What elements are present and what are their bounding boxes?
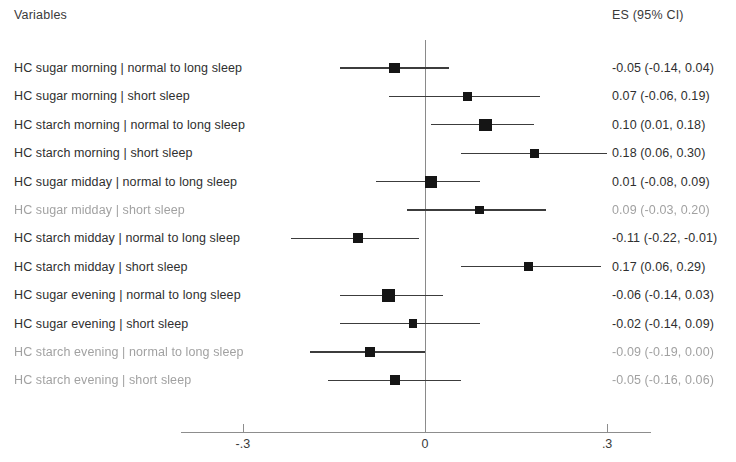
axis-tick-label: .3 [602, 437, 612, 451]
row-effect-size-value: 0.10 (0.01, 0.18) [612, 111, 705, 139]
table-row: HC sugar midday | short sleep0.09 (-0.03… [0, 196, 736, 224]
table-row: HC sugar morning | normal to long sleep-… [0, 54, 736, 82]
row-variable-label: HC sugar midday | short sleep [14, 196, 185, 224]
row-effect-size-value: -0.09 (-0.19, 0.00) [612, 338, 714, 366]
row-variable-label: HC starch morning | normal to long sleep [14, 111, 245, 139]
table-row: HC sugar evening | short sleep-0.02 (-0.… [0, 310, 736, 338]
row-effect-size-value: 0.18 (0.06, 0.30) [612, 139, 705, 167]
row-variable-label: HC starch midday | short sleep [14, 253, 188, 281]
table-row: HC sugar evening | normal to long sleep-… [0, 281, 736, 309]
row-variable-label: HC starch morning | short sleep [14, 139, 193, 167]
row-variable-label: HC starch evening | normal to long sleep [14, 338, 244, 366]
row-variable-label: HC starch evening | short sleep [14, 366, 191, 394]
forest-plot-figure: Variables ES (95% CI) HC sugar morning |… [0, 0, 736, 462]
row-effect-size-value: -0.05 (-0.14, 0.04) [612, 54, 714, 82]
row-variable-label: HC sugar morning | normal to long sleep [14, 54, 242, 82]
row-effect-size-value: 0.07 (-0.06, 0.19) [612, 82, 710, 110]
column-header-effect-size: ES (95% CI) [612, 8, 684, 22]
row-effect-size-value: -0.11 (-0.22, -0.01) [612, 224, 717, 252]
axis-tick [425, 424, 426, 432]
table-row: HC starch midday | normal to long sleep-… [0, 224, 736, 252]
column-header-variables: Variables [14, 8, 67, 22]
table-row: HC starch evening | normal to long sleep… [0, 338, 736, 366]
x-axis-line [181, 432, 651, 433]
table-row: HC starch evening | short sleep-0.05 (-0… [0, 366, 736, 394]
axis-tick-label: -.3 [236, 437, 251, 451]
table-row: HC starch morning | normal to long sleep… [0, 111, 736, 139]
axis-tick [243, 424, 244, 432]
row-effect-size-value: -0.05 (-0.16, 0.06) [612, 366, 714, 394]
row-effect-size-value: 0.17 (0.06, 0.29) [612, 253, 705, 281]
row-effect-size-value: -0.02 (-0.14, 0.09) [612, 310, 714, 338]
row-effect-size-value: 0.01 (-0.08, 0.09) [612, 168, 710, 196]
axis-tick [607, 424, 608, 432]
axis-tick-label: 0 [422, 437, 429, 451]
row-variable-label: HC sugar morning | short sleep [14, 82, 190, 110]
table-row: HC starch morning | short sleep0.18 (0.0… [0, 139, 736, 167]
table-row: HC sugar morning | short sleep0.07 (-0.0… [0, 82, 736, 110]
table-row: HC sugar midday | normal to long sleep0.… [0, 168, 736, 196]
row-variable-label: HC sugar evening | normal to long sleep [14, 281, 241, 309]
row-variable-label: HC starch midday | normal to long sleep [14, 224, 240, 252]
row-variable-label: HC sugar midday | normal to long sleep [14, 168, 237, 196]
row-variable-label: HC sugar evening | short sleep [14, 310, 188, 338]
row-effect-size-value: -0.06 (-0.14, 0.03) [612, 281, 714, 309]
row-effect-size-value: 0.09 (-0.03, 0.20) [612, 196, 710, 224]
table-row: HC starch midday | short sleep0.17 (0.06… [0, 253, 736, 281]
